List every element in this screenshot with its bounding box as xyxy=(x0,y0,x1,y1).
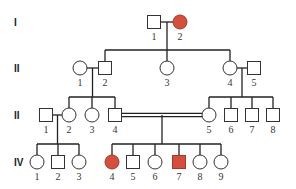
male-square-icon xyxy=(40,109,53,122)
generation-label: IV xyxy=(14,157,24,168)
male-square-icon xyxy=(267,109,280,122)
female-circle-icon xyxy=(223,61,237,75)
individual-ii-5: 5 xyxy=(248,62,261,88)
affected-female-circle-icon xyxy=(173,15,187,29)
female-circle-icon xyxy=(214,155,228,169)
affected-female-circle-icon xyxy=(105,155,119,169)
individual-number: 7 xyxy=(250,124,255,135)
male-square-icon xyxy=(246,109,259,122)
generation-label: II xyxy=(14,110,20,121)
individual-number: 3 xyxy=(165,77,170,88)
individual-number: 1 xyxy=(44,124,49,135)
individual-iv-4: 4 xyxy=(105,155,119,182)
individual-iii-4: 4 xyxy=(109,109,122,135)
individual-iv-3: 3 xyxy=(72,155,86,182)
individual-number: 1 xyxy=(152,31,157,42)
female-circle-icon xyxy=(72,155,86,169)
male-square-icon xyxy=(52,156,65,169)
individual-iv-2: 2 xyxy=(52,156,65,182)
individual-number: 4 xyxy=(113,124,118,135)
individual-iv-6: 6 xyxy=(148,155,162,182)
female-circle-icon xyxy=(30,155,44,169)
individual-iv-7: 7 xyxy=(173,156,186,182)
individual-number: 7 xyxy=(177,171,182,182)
individual-iv-5: 5 xyxy=(127,156,140,182)
individual-number: 9 xyxy=(219,171,224,182)
relationship-lines xyxy=(37,22,273,156)
male-square-icon xyxy=(109,109,122,122)
individual-number: 3 xyxy=(77,171,82,182)
male-square-icon xyxy=(148,16,161,29)
individual-ii-4: 4 xyxy=(223,61,237,88)
individual-number: 4 xyxy=(228,77,233,88)
female-circle-icon xyxy=(148,155,162,169)
male-square-icon xyxy=(225,109,238,122)
female-circle-icon xyxy=(73,61,87,75)
individual-number: 3 xyxy=(90,124,95,135)
individual-number: 2 xyxy=(103,77,108,88)
pedigree-chart: IIIIIIV 121234512345678123456789 xyxy=(0,0,296,189)
individual-number: 5 xyxy=(252,77,257,88)
generation-label: II xyxy=(14,63,20,74)
individual-iv-1: 1 xyxy=(30,155,44,182)
individual-number: 6 xyxy=(153,171,158,182)
individual-iii-6: 6 xyxy=(225,109,238,135)
individual-iii-2: 2 xyxy=(62,108,76,135)
female-circle-icon xyxy=(193,155,207,169)
individual-number: 8 xyxy=(271,124,276,135)
female-circle-icon xyxy=(85,108,99,122)
generation-label: I xyxy=(14,17,17,28)
individual-number: 5 xyxy=(131,171,136,182)
individual-iii-8: 8 xyxy=(267,109,280,135)
individual-iii-1: 1 xyxy=(40,109,53,135)
individual-ii-1: 1 xyxy=(73,61,87,88)
individual-number: 1 xyxy=(78,77,83,88)
individual-ii-3: 3 xyxy=(160,61,174,88)
individual-i-2: 2 xyxy=(173,15,187,42)
individual-number: 6 xyxy=(229,124,234,135)
male-square-icon xyxy=(248,62,261,75)
female-circle-icon xyxy=(62,108,76,122)
male-square-icon xyxy=(127,156,140,169)
female-circle-icon xyxy=(202,108,216,122)
individual-ii-2: 2 xyxy=(99,62,112,88)
generation-labels: IIIIIIV xyxy=(14,17,24,168)
individual-iv-8: 8 xyxy=(193,155,207,182)
individual-number: 4 xyxy=(110,171,115,182)
individual-iii-7: 7 xyxy=(246,109,259,135)
individual-iii-3: 3 xyxy=(85,108,99,135)
individual-number: 2 xyxy=(67,124,72,135)
individuals: 121234512345678123456789 xyxy=(30,15,280,182)
individual-iv-9: 9 xyxy=(214,155,228,182)
individual-number: 5 xyxy=(207,124,212,135)
individual-iii-5: 5 xyxy=(202,108,216,135)
affected-male-square-icon xyxy=(173,156,186,169)
individual-i-1: 1 xyxy=(148,16,161,42)
female-circle-icon xyxy=(160,61,174,75)
individual-number: 1 xyxy=(35,171,40,182)
individual-number: 2 xyxy=(56,171,61,182)
individual-number: 2 xyxy=(178,31,183,42)
male-square-icon xyxy=(99,62,112,75)
individual-number: 8 xyxy=(198,171,203,182)
